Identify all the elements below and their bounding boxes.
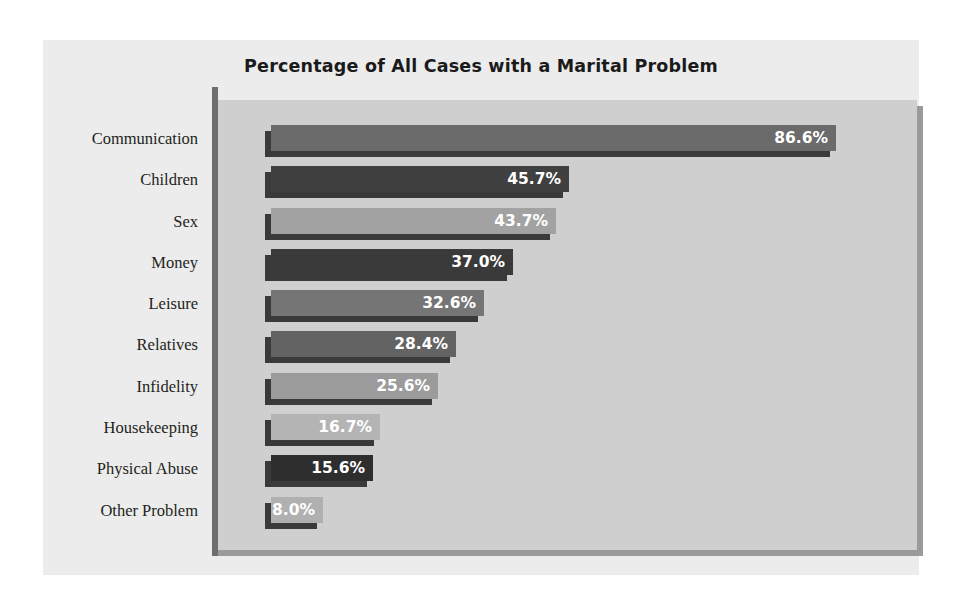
category-label: Leisure (43, 283, 206, 324)
bar-row: 15.6% (212, 448, 923, 489)
bar-value-label: 8.0% (271, 497, 315, 523)
category-label: Other Problem (43, 490, 206, 531)
bar-value-label: 32.6% (271, 290, 476, 316)
bar-row: 37.0% (212, 242, 923, 283)
bar-row: 8.0% (212, 490, 923, 531)
bar-row: 32.6% (212, 283, 923, 324)
bar-series: 86.6%45.7%43.7%37.0%32.6%28.4%25.6%16.7%… (212, 118, 923, 531)
category-axis: CommunicationChildrenSexMoneyLeisureRela… (43, 118, 206, 531)
bar-row: 25.6% (212, 366, 923, 407)
bar-row: 43.7% (212, 201, 923, 242)
category-label: Housekeeping (43, 407, 206, 448)
bar-row: 86.6% (212, 118, 923, 159)
bar-value-label: 25.6% (271, 373, 430, 399)
bar-row: 45.7% (212, 159, 923, 200)
bar-value-label: 16.7% (271, 414, 372, 440)
category-label: Communication (43, 118, 206, 159)
category-label: Relatives (43, 324, 206, 365)
chart-title: Percentage of All Cases with a Marital P… (43, 56, 919, 76)
bar-value-label: 28.4% (271, 331, 448, 357)
bar-value-label: 45.7% (271, 166, 561, 192)
bar-row: 28.4% (212, 324, 923, 365)
bar-value-label: 37.0% (271, 249, 505, 275)
category-label: Physical Abuse (43, 448, 206, 489)
bar-value-label: 43.7% (271, 208, 548, 234)
category-label: Infidelity (43, 366, 206, 407)
category-label: Children (43, 159, 206, 200)
bar-value-label: 15.6% (271, 455, 365, 481)
category-label: Money (43, 242, 206, 283)
bar-row: 16.7% (212, 407, 923, 448)
category-label: Sex (43, 201, 206, 242)
chart-panel: Percentage of All Cases with a Marital P… (43, 40, 919, 575)
bar-value-label: 86.6% (271, 125, 828, 151)
